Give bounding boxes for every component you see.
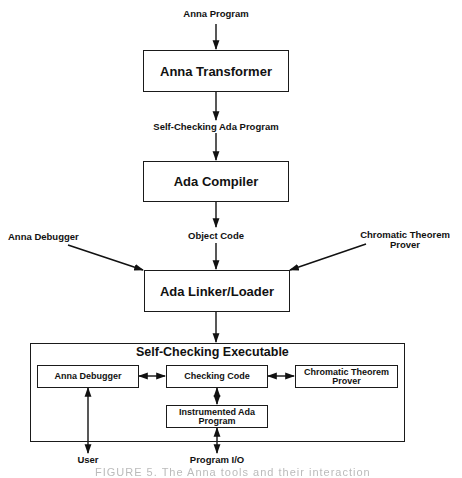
self-checking-ada-program-label: Self-Checking Ada Program bbox=[136, 122, 296, 132]
anna-transformer-label: Anna Transformer bbox=[160, 64, 272, 79]
anna-debugger-input-label: Anna Debugger bbox=[8, 232, 88, 242]
anna-program-label: Anna Program bbox=[166, 9, 266, 19]
anna-transformer-box: Anna Transformer bbox=[143, 50, 289, 92]
ada-compiler-box: Ada Compiler bbox=[143, 161, 289, 202]
inner-anna-debugger-label: Anna Debugger bbox=[54, 372, 121, 381]
chromatic-theorem-prover-input-label: Chromatic Theorem Prover bbox=[357, 230, 453, 250]
ada-linker-loader-box: Ada Linker/Loader bbox=[144, 270, 290, 312]
ada-linker-loader-label: Ada Linker/Loader bbox=[160, 284, 274, 299]
inner-anna-debugger-box: Anna Debugger bbox=[37, 365, 139, 388]
arrow-debugger-to-linker bbox=[68, 245, 143, 270]
user-label: User bbox=[73, 455, 103, 465]
instrumented-ada-program-box: Instrumented Ada Program bbox=[166, 405, 268, 428]
inner-chromatic-theorem-prover-box: Chromatic Theorem Prover bbox=[295, 365, 398, 388]
checking-code-label: Checking Code bbox=[184, 372, 250, 381]
arrow-prover-to-linker bbox=[290, 244, 366, 270]
object-code-label: Object Code bbox=[181, 231, 251, 241]
checking-code-box: Checking Code bbox=[166, 365, 268, 388]
figure-caption: FIGURE 5. The Anna tools and their inter… bbox=[95, 466, 371, 478]
program-io-label: Program I/O bbox=[182, 455, 252, 465]
self-checking-executable-title: Self-Checking Executable bbox=[136, 345, 289, 359]
ada-compiler-label: Ada Compiler bbox=[174, 174, 259, 189]
